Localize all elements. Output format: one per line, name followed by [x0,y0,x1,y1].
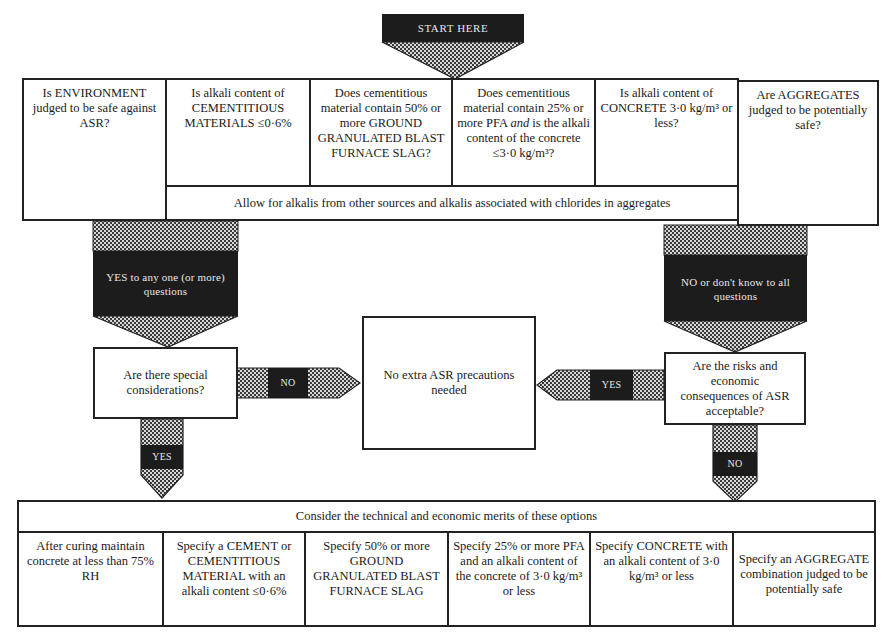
yes-special-label: YES [141,445,183,469]
yes-risks-label: YES [590,370,633,400]
no-all-label: NO or don't know to all questions [670,261,801,317]
no-risks-label: NO [713,452,757,476]
option-concrete-alkali: Specify CONCRETE with an alkali content … [591,533,732,584]
option-maintain-rh: After curing maintain concrete at less t… [19,533,162,584]
allow-note: Allow for alkalis from other sources and… [167,187,737,219]
option-safe-aggregate: Specify an AGGREGATE combination judged … [734,546,874,597]
option-pfa: Specify 25% or more PFA and an alkali co… [449,533,589,599]
question-pfa: Does cementitious material contain 25% o… [453,80,594,161]
option-low-alkali-cement: Specify a CEMENT or CEMENTITIOUS MATERIA… [164,533,304,599]
question-cementitious-alkali: Is alkali content of CEMENTITIOUS MATERI… [167,80,309,131]
question-environment: Is ENVIRONMENT judged to be safe against… [24,80,165,131]
start-here-label: START HERE [382,14,524,42]
question-aggregates: Are AGGREGATES judged to be potentially … [739,82,877,133]
yes-any-label: YES to any one (or more) questions [100,256,231,312]
decision-risks-acceptable: Are the risks and economic consequences … [664,352,806,425]
options-header: Consider the technical and economic meri… [19,502,874,531]
option-ggbs: Specify 50% or more GROUND GRANULATED BL… [306,533,447,599]
outcome-no-extra-precautions: No extra ASR precautions needed [362,316,536,450]
question-ggbs: Does cementitious material contain 50% o… [311,80,451,161]
question-concrete-alkali: Is alkali content of CONCRETE 3·0 kg/m³ … [596,80,737,131]
decision-special-considerations: Are there special considerations? [93,347,238,419]
no-special-label: NO [268,368,308,398]
